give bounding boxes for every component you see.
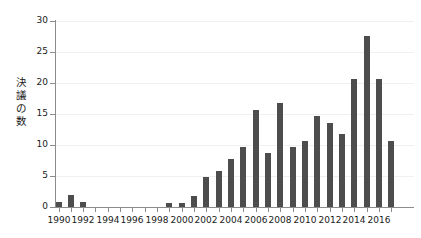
- bar: [228, 159, 234, 207]
- y-tick-label: 30: [26, 16, 48, 25]
- y-tick-label: 20: [26, 78, 48, 87]
- bar: [216, 171, 222, 207]
- x-tick-mark: [268, 208, 269, 212]
- x-tick-mark: [71, 208, 72, 212]
- y-tick: 30: [20, 16, 48, 25]
- bar: [191, 196, 197, 207]
- y-axis-line: [55, 20, 56, 208]
- y-tick: 25: [20, 47, 48, 56]
- y-tick: 0: [20, 202, 48, 211]
- x-tick-mark: [145, 208, 146, 212]
- x-tick-mark: [379, 208, 380, 212]
- bar: [277, 103, 283, 207]
- y-tick-mark: [50, 145, 55, 146]
- y-tick: 20: [20, 78, 48, 87]
- x-tick-mark: [243, 208, 244, 212]
- x-tick-mark: [120, 208, 121, 212]
- y-axis-title-char: 議: [12, 89, 30, 102]
- x-tick-mark: [132, 208, 133, 212]
- y-tick-mark: [50, 21, 55, 22]
- y-tick: 15: [20, 109, 48, 118]
- y-tick-mark: [50, 114, 55, 115]
- x-tick-mark: [169, 208, 170, 212]
- y-tick-mark: [50, 176, 55, 177]
- bar: [327, 123, 333, 207]
- bar: [179, 203, 185, 207]
- y-tick: 10: [20, 140, 48, 149]
- y-tick: 5: [20, 171, 48, 180]
- x-tick-mark: [95, 208, 96, 212]
- bar: [339, 134, 345, 207]
- bar: [376, 79, 382, 207]
- bar: [166, 203, 172, 207]
- x-tick-mark: [256, 208, 257, 212]
- y-tick-label: 0: [26, 202, 48, 211]
- gridline: [55, 83, 414, 84]
- x-tick-mark: [219, 208, 220, 212]
- x-tick-mark: [182, 208, 183, 212]
- x-tick-mark: [206, 208, 207, 212]
- x-tick-mark: [367, 208, 368, 212]
- y-tick-mark: [50, 207, 55, 208]
- y-tick-mark: [50, 83, 55, 84]
- bar: [364, 36, 370, 207]
- x-tick-mark: [317, 208, 318, 212]
- gridline: [55, 114, 414, 115]
- gridline: [55, 176, 414, 177]
- y-tick-mark: [50, 52, 55, 53]
- y-tick-label: 5: [26, 171, 48, 180]
- bar: [56, 202, 62, 207]
- x-tick-mark: [59, 208, 60, 212]
- bar: [388, 141, 394, 207]
- y-tick-label: 25: [26, 47, 48, 56]
- x-tick-mark: [194, 208, 195, 212]
- x-tick-mark: [280, 208, 281, 212]
- bar: [351, 79, 357, 207]
- gridline: [55, 21, 414, 22]
- y-tick-label: 10: [26, 140, 48, 149]
- y-tick-label: 15: [26, 109, 48, 118]
- bar: [203, 177, 209, 207]
- x-tick-mark: [157, 208, 158, 212]
- x-tick-mark: [83, 208, 84, 212]
- x-tick-mark: [354, 208, 355, 212]
- x-tick-mark: [330, 208, 331, 212]
- x-tick-mark: [231, 208, 232, 212]
- x-tick-mark: [342, 208, 343, 212]
- bar: [253, 110, 259, 207]
- bar: [314, 116, 320, 207]
- bar: [265, 153, 271, 207]
- x-tick-mark: [391, 208, 392, 212]
- bar: [240, 147, 246, 207]
- x-tick-mark: [305, 208, 306, 212]
- x-tick-mark: [293, 208, 294, 212]
- bar: [302, 141, 308, 207]
- gridline: [55, 145, 414, 146]
- chart-figure: 決 議 の 数 051015202530 1990199219941996199…: [0, 0, 421, 238]
- bar: [68, 195, 74, 207]
- bar: [290, 147, 296, 207]
- bar: [80, 202, 86, 207]
- x-tick-mark: [108, 208, 109, 212]
- x-tick-label: 2016: [359, 215, 399, 226]
- gridline: [55, 52, 414, 53]
